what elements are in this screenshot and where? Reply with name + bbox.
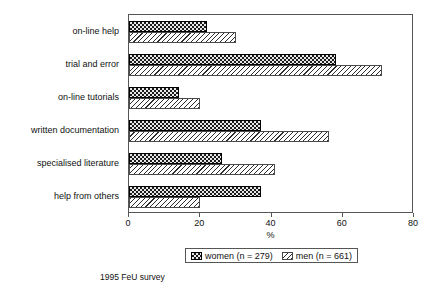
legend-entry: women (n = 279)	[191, 251, 273, 261]
bar-men-on-line-tutorials	[129, 98, 200, 109]
bar-women-on-line-tutorials	[129, 87, 179, 98]
bar-men-on-line-help	[129, 32, 236, 43]
x-tick-label: 20	[194, 218, 204, 228]
chart-legend: women (n = 279)men (n = 661)	[185, 248, 358, 263]
diagonal-hatch-swatch	[282, 252, 293, 260]
bar-men-specialised-literature	[129, 164, 275, 175]
x-tick-label: 80	[408, 218, 418, 228]
bar-men-written-documentation	[129, 131, 329, 142]
category-label: written documentation	[31, 125, 119, 135]
bar-women-help-from-others	[129, 186, 261, 197]
x-tick-mark	[128, 213, 129, 217]
category-label: specialised literature	[37, 158, 119, 168]
chart-caption: 1995 FeU survey	[100, 272, 165, 282]
x-tick-label: 0	[125, 218, 130, 228]
category-label: trial and error	[65, 59, 119, 69]
x-tick-mark	[342, 213, 343, 217]
legend-label: women (n = 279)	[205, 251, 273, 261]
x-axis: 020406080	[128, 213, 413, 229]
legend-label: men (n = 661)	[296, 251, 352, 261]
x-tick-label: 60	[337, 218, 347, 228]
bar-men-help-from-others	[129, 197, 200, 208]
category-label: on-line help	[72, 26, 119, 36]
bar-women-specialised-literature	[129, 153, 222, 164]
legend-entry: men (n = 661)	[282, 251, 352, 261]
bar-women-written-documentation	[129, 120, 261, 131]
bar-women-on-line-help	[129, 21, 207, 32]
category-label: on-line tutorials	[58, 92, 119, 102]
plot-frame	[128, 14, 413, 213]
category-label: help from others	[54, 191, 119, 201]
bar-men-trial-and-error	[129, 65, 382, 76]
plot-area	[129, 15, 412, 212]
bar-women-trial-and-error	[129, 54, 336, 65]
bar-chart-figure: on-line helptrial and erroron-line tutor…	[0, 0, 443, 296]
x-tick-mark	[413, 213, 414, 217]
x-tick-mark	[271, 213, 272, 217]
dark-checkered-swatch	[191, 252, 202, 260]
x-axis-title: %	[128, 230, 413, 240]
x-tick-mark	[199, 213, 200, 217]
category-axis-labels: on-line helptrial and erroron-line tutor…	[0, 14, 124, 213]
x-tick-label: 40	[265, 218, 275, 228]
